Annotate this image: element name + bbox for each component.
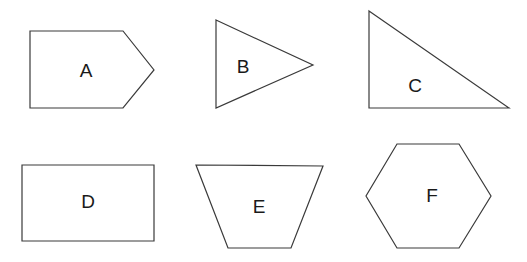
shape-label-f: F — [426, 185, 438, 206]
shape-label-d: D — [81, 191, 95, 212]
shape-label-b: B — [237, 56, 250, 77]
shape-f: F — [366, 144, 491, 248]
shape-a: A — [30, 31, 154, 108]
shape-c: C — [369, 11, 509, 108]
shapes-diagram: A B C D E F — [0, 0, 527, 262]
shape-e: E — [196, 165, 323, 248]
shape-label-e: E — [253, 196, 266, 217]
shape-label-a: A — [80, 60, 93, 81]
shape-b: B — [216, 20, 313, 108]
shape-label-c: C — [408, 75, 422, 96]
triangle-shape — [216, 20, 313, 108]
right-triangle-shape — [369, 11, 509, 108]
shape-d: D — [22, 165, 154, 241]
